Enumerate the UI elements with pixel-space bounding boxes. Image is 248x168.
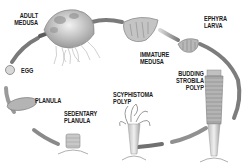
label-adult-medusa: ADULT MEDUSA <box>14 12 38 26</box>
label-egg: EGG <box>21 67 33 74</box>
immature-medusa-illustration <box>124 17 159 41</box>
label-sedentary-planula: SEDENTARY PLANULA <box>64 110 97 124</box>
sedentary-planula-illustration <box>58 134 88 154</box>
label-ephyra-larva: EPHYRA LARVA <box>204 15 227 29</box>
budding-strobila-illustration <box>200 70 228 162</box>
arrow-egg-to-adult <box>12 38 38 62</box>
ephyra-larva-illustration <box>178 39 198 53</box>
label-budding-strobila-polyp: BUDDING STROBILA POLYP <box>176 70 204 91</box>
life-cycle-diagram: ADULT MEDUSA IMMATURE MEDUSA EPHYRA LARV… <box>0 0 248 168</box>
scyphistoma-polyp-illustration <box>120 104 150 160</box>
label-planula: PLANULA <box>35 97 61 104</box>
arrow-strobila-to-scyphistoma <box>172 128 206 142</box>
adult-medusa-illustration <box>44 10 100 66</box>
label-immature-medusa: IMMATURE MEDUSA <box>140 51 169 65</box>
egg-illustration <box>6 66 15 75</box>
arrow-immature-to-ephyra <box>160 30 178 40</box>
cycle-arrow-segments <box>6 20 239 148</box>
arrow-sedentary-to-planula <box>34 130 58 144</box>
label-scyphistoma-polyp: SCYPHISTOMA POLYP <box>113 91 153 105</box>
arrow-adult-to-immature <box>92 20 122 22</box>
planula-illustration <box>6 95 38 112</box>
